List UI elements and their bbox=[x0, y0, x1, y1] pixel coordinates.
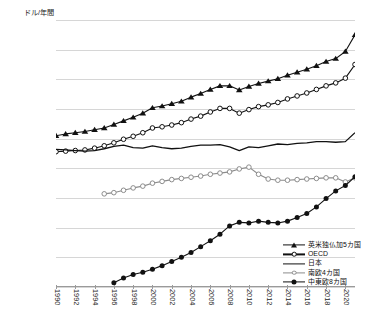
data-point-marker bbox=[179, 255, 184, 260]
chart-legend: 英米独仏加5カ国OECD日本南欧4カ国中東欧8カ国 bbox=[283, 241, 363, 287]
data-point-marker bbox=[227, 170, 232, 175]
data-point-marker bbox=[208, 110, 213, 115]
data-point-marker bbox=[160, 263, 165, 268]
legend-item[interactable]: 中東欧8カ国 bbox=[283, 278, 363, 287]
series-1 bbox=[56, 62, 355, 154]
legend-label: 中東欧8カ国 bbox=[305, 278, 347, 287]
legend-item[interactable]: 日本 bbox=[283, 259, 363, 268]
legend-item[interactable]: 南欧4カ国 bbox=[283, 269, 363, 278]
data-point-marker bbox=[160, 125, 165, 130]
data-point-marker bbox=[218, 171, 223, 176]
data-point-marker bbox=[160, 179, 165, 184]
data-point-marker bbox=[295, 215, 300, 220]
data-point-marker bbox=[324, 84, 329, 89]
x-tick-label: 1996 bbox=[110, 289, 119, 305]
data-point-marker bbox=[247, 165, 252, 170]
data-point-marker bbox=[227, 106, 232, 111]
data-point-marker bbox=[131, 186, 136, 191]
data-point-marker bbox=[266, 103, 271, 108]
data-point-marker bbox=[247, 107, 252, 112]
data-point-marker bbox=[130, 114, 137, 119]
data-point-marker bbox=[218, 106, 223, 111]
data-point-marker bbox=[189, 117, 194, 122]
x-axis-tick-labels: 1990199219941996199820002002200420062008… bbox=[56, 289, 355, 327]
x-tick-label: 2016 bbox=[303, 289, 312, 305]
data-point-marker bbox=[131, 134, 136, 139]
legend-marker-open-circle-icon bbox=[283, 250, 305, 259]
x-tick-label: 2004 bbox=[188, 289, 197, 305]
data-point-marker bbox=[333, 176, 338, 181]
legend-item[interactable]: 英米独仏加5カ国 bbox=[283, 241, 363, 250]
legend-marker-filled-circle-icon bbox=[283, 278, 305, 287]
data-point-marker bbox=[246, 220, 251, 225]
data-point-marker bbox=[169, 123, 174, 128]
data-point-marker bbox=[333, 188, 338, 193]
data-point-marker bbox=[285, 97, 290, 102]
data-point-marker bbox=[343, 183, 348, 188]
data-point-marker bbox=[324, 196, 329, 201]
data-point-marker bbox=[141, 184, 146, 189]
data-point-marker bbox=[285, 219, 290, 224]
data-point-marker bbox=[343, 76, 348, 81]
x-tick-label: 2018 bbox=[323, 289, 332, 305]
x-tick-label: 2014 bbox=[284, 289, 293, 305]
data-point-marker bbox=[266, 220, 271, 225]
data-point-marker bbox=[140, 270, 145, 275]
data-point-marker bbox=[313, 63, 320, 68]
x-tick-label: 1994 bbox=[91, 289, 100, 305]
legend-label: 英米独仏加5カ国 bbox=[305, 241, 361, 250]
legend-label: 日本 bbox=[305, 259, 322, 268]
data-point-marker bbox=[150, 126, 155, 131]
data-point-marker bbox=[304, 177, 309, 182]
data-point-marker bbox=[141, 130, 146, 135]
data-point-marker bbox=[256, 219, 261, 224]
series-line bbox=[56, 35, 355, 136]
data-point-marker bbox=[169, 259, 174, 264]
series-line bbox=[56, 65, 355, 152]
x-tick-label: 2006 bbox=[207, 289, 216, 305]
data-point-marker bbox=[208, 172, 213, 177]
legend-marker-filled-triangle-icon bbox=[283, 241, 305, 250]
x-tick-label: 2010 bbox=[245, 289, 254, 305]
data-point-marker bbox=[276, 100, 281, 105]
data-point-marker bbox=[276, 178, 281, 183]
data-point-marker bbox=[179, 120, 184, 125]
data-point-marker bbox=[227, 223, 232, 228]
x-tick-label: 2012 bbox=[265, 289, 274, 305]
data-point-marker bbox=[295, 177, 300, 182]
data-point-marker bbox=[237, 220, 242, 225]
data-point-marker bbox=[314, 176, 319, 181]
x-tick-label: 1990 bbox=[53, 289, 62, 305]
series-2 bbox=[56, 133, 355, 151]
data-point-marker bbox=[237, 167, 242, 172]
data-point-marker bbox=[189, 250, 194, 255]
data-point-marker bbox=[208, 238, 213, 243]
series-0 bbox=[56, 32, 355, 138]
data-point-marker bbox=[304, 211, 309, 216]
data-point-marker bbox=[217, 232, 222, 237]
data-point-marker bbox=[121, 137, 126, 142]
y-axis-tick-labels: 60,00055,00050,00045,00040,00035,00030,0… bbox=[0, 0, 52, 327]
data-point-marker bbox=[275, 220, 280, 225]
series-3 bbox=[102, 165, 355, 196]
data-point-marker bbox=[285, 178, 290, 183]
data-point-marker bbox=[102, 192, 107, 197]
data-point-marker bbox=[352, 32, 355, 37]
data-point-marker bbox=[102, 143, 107, 148]
x-tick-label: 2020 bbox=[342, 289, 351, 305]
legend-item[interactable]: OECD bbox=[283, 250, 363, 259]
data-point-marker bbox=[112, 141, 117, 146]
data-point-marker bbox=[131, 272, 136, 277]
data-point-marker bbox=[304, 91, 309, 96]
legend-marker-line-icon bbox=[283, 259, 305, 268]
data-point-marker bbox=[150, 181, 155, 186]
data-point-marker bbox=[295, 94, 300, 99]
data-point-marker bbox=[324, 176, 329, 181]
data-point-marker bbox=[121, 188, 126, 193]
data-point-marker bbox=[121, 276, 126, 281]
x-tick-label: 2008 bbox=[226, 289, 235, 305]
legend-marker-open-circle-grey-icon bbox=[283, 269, 305, 278]
data-point-marker bbox=[314, 87, 319, 92]
data-point-marker bbox=[140, 110, 147, 115]
data-point-marker bbox=[353, 62, 355, 67]
